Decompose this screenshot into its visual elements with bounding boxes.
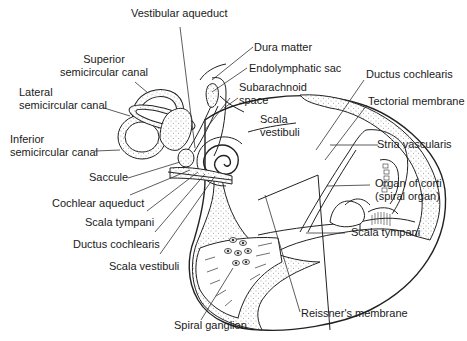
label-scala-vestibuli-inner-line1: Scala xyxy=(260,113,300,126)
label-subarachnoid-line2: space xyxy=(239,94,307,107)
label-endolymphatic-sac: Endolymphatic sac xyxy=(249,62,341,75)
label-ductus-cochlearis-right: Ductus cochlearis xyxy=(366,68,453,81)
label-lateral-line1: Lateral xyxy=(19,86,107,99)
label-reissners-membrane: Reissner's membrane xyxy=(301,307,408,320)
label-spiral-ganglion: Spiral ganglion xyxy=(174,319,247,332)
label-lateral-semicircular-canal: Lateral semicircular canal xyxy=(19,86,107,112)
label-superior-line1: Superior xyxy=(60,53,148,66)
label-inferior-line2: semicircular canal xyxy=(10,146,98,159)
label-scala-vestibuli-inner-line2: vestibuli xyxy=(260,126,300,139)
cochlea-section xyxy=(189,95,445,331)
label-subarachnoid-line1: Subarachnoid xyxy=(239,81,307,94)
label-cochlear-aqueduct: Cochlear aqueduct xyxy=(52,197,144,210)
label-tectorial-membrane: Tectorial membrane xyxy=(368,95,465,108)
label-scala-vestibuli-inner: Scala vestibuli xyxy=(260,113,300,139)
label-dura-matter: Dura matter xyxy=(254,41,312,54)
label-ductus-cochlearis-left: Ductus cochlearis xyxy=(73,238,160,251)
label-organ-of-corti: Organ of corti (spiral organ) xyxy=(375,177,442,203)
label-scala-vestibuli-left: Scala vestibuli xyxy=(109,260,179,273)
label-inferior-line1: Inferior xyxy=(10,133,98,146)
label-inferior-semicircular-canal: Inferior semicircular canal xyxy=(10,133,98,159)
label-superior-semicircular-canal: Superior semicircular canal xyxy=(60,53,148,79)
label-scala-tympani-left: Scala tympani xyxy=(85,216,154,229)
label-vestibular-aqueduct: Vestibular aqueduct xyxy=(131,7,228,20)
label-organ-of-corti-line2: (spiral organ) xyxy=(375,190,442,203)
label-lateral-line2: semicircular canal xyxy=(19,99,107,112)
label-superior-line2: semicircular canal xyxy=(60,66,148,79)
label-stria-vascularis: Stria vascularis xyxy=(377,138,452,151)
label-organ-of-corti-line1: Organ of corti xyxy=(375,177,442,190)
inner-ear-illustration xyxy=(0,0,467,341)
label-saccule: Saccule xyxy=(89,171,128,184)
label-scala-tympani-right: Scala tympani xyxy=(351,226,420,239)
label-subarachnoid-space: Subarachnoid space xyxy=(239,81,307,107)
semicircular-canals xyxy=(118,64,244,167)
